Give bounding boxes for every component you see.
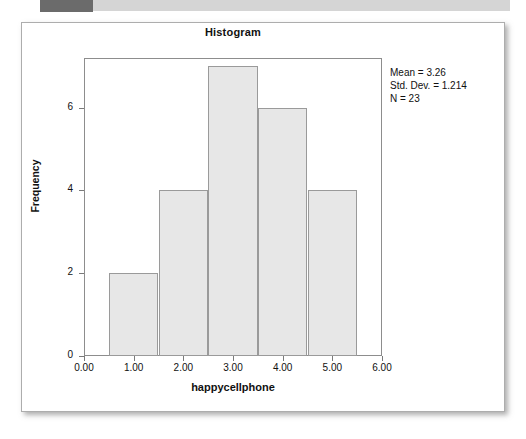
x-tick-label: 4.00 [263, 362, 303, 373]
x-tick-label: 2.00 [163, 362, 203, 373]
header-band-dark [40, 0, 93, 12]
y-tick-mark [79, 108, 84, 109]
x-tick-mark [283, 356, 284, 361]
stat-std-dev: Std. Dev. = 1.214 [390, 79, 467, 92]
x-tick-mark [134, 356, 135, 361]
y-tick-mark [79, 273, 84, 274]
stat-n: N = 23 [390, 92, 467, 105]
x-tick-mark [84, 356, 85, 361]
histogram-bar [258, 108, 308, 356]
y-tick-mark [79, 190, 84, 191]
x-tick-label: 1.00 [114, 362, 154, 373]
page-title: Histogram [63, 26, 403, 38]
x-axis-title: happycellphone [84, 381, 382, 393]
histogram-bar [308, 190, 358, 356]
x-tick-label: 6.00 [362, 362, 402, 373]
histogram-bar [109, 273, 159, 356]
y-axis-title: Frequency [29, 131, 41, 241]
x-tick-mark [233, 356, 234, 361]
y-tick-label: 2 [47, 266, 73, 277]
x-tick-label: 3.00 [213, 362, 253, 373]
y-tick-label: 6 [47, 101, 73, 112]
x-tick-mark [382, 356, 383, 361]
stat-mean: Mean = 3.26 [390, 66, 467, 79]
y-tick-label: 0 [47, 349, 73, 360]
x-tick-mark [332, 356, 333, 361]
x-tick-mark [183, 356, 184, 361]
histogram-bar [208, 66, 258, 356]
x-tick-label: 0.00 [64, 362, 104, 373]
statistics-annotation: Mean = 3.26 Std. Dev. = 1.214 N = 23 [390, 66, 467, 105]
header-band-light [40, 0, 510, 11]
x-tick-label: 5.00 [312, 362, 352, 373]
histogram-bar [159, 190, 209, 356]
y-tick-label: 4 [47, 183, 73, 194]
